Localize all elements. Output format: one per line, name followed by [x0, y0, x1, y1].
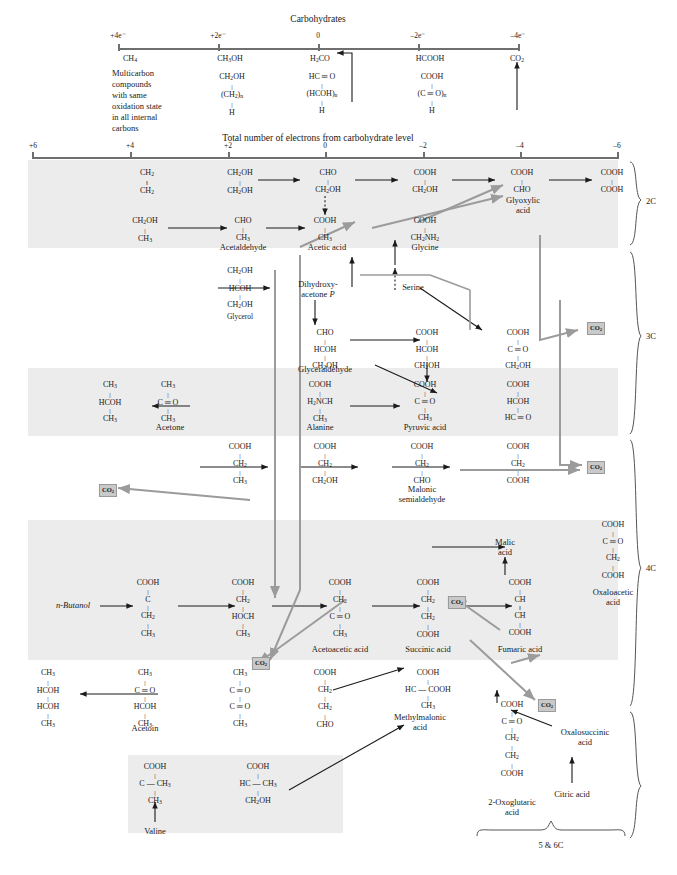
- formula-line: CH3: [132, 234, 158, 246]
- molecule-ketoisovaleric-acid: COOH|C — CH3|CH3: [139, 762, 170, 808]
- generic-polyketone: COOH | (C ═ O)n | H: [418, 72, 447, 117]
- label-pyruvic-acid: Pyruvic acid: [404, 423, 447, 433]
- note-line: carbons: [112, 123, 162, 134]
- label-fumaric-acid: Fumaric acid: [498, 645, 543, 655]
- main-tick: [130, 152, 132, 159]
- top-tick-label: –4e⁻: [511, 31, 526, 40]
- formula-line: COOH: [307, 380, 333, 391]
- top-tick-label: –2e⁻: [411, 31, 426, 40]
- brace-label-3c: 3C: [646, 331, 656, 341]
- formula-line: COOH: [405, 668, 451, 679]
- label-acetoacetic-acid: Acetoacetic acid: [312, 645, 368, 655]
- formula-line: CH3: [139, 796, 170, 808]
- main-tick-label: 0: [323, 141, 327, 150]
- formula-line: COOH: [505, 328, 531, 339]
- formula-line: CHO: [235, 216, 252, 227]
- molecule-glycolaldehyde: CHO|CH2OH: [315, 168, 341, 196]
- formula-line: COOH: [314, 668, 337, 679]
- formula-line: HC ═ O: [505, 413, 532, 424]
- main-tick: [32, 152, 34, 159]
- molecule-glyceric-acid: COOH|HCOH|CH2OH: [414, 328, 440, 373]
- formula-line: CH3: [229, 476, 252, 488]
- top-tick: [518, 44, 520, 51]
- label-oxaloacetic-acid: Oxaloaceticacid: [593, 588, 634, 607]
- generic-line: H: [307, 106, 338, 117]
- formula-line: COOH: [139, 762, 170, 773]
- note-line: compounds: [112, 79, 162, 90]
- formula-carbon-dioxide: CO2: [510, 54, 524, 66]
- formula-line: COOH: [509, 578, 532, 589]
- formula-line: COOH: [229, 442, 252, 453]
- molecule-glycolic-acid: COOH|CH2OH: [412, 168, 438, 196]
- generic-line: H: [219, 108, 245, 119]
- molecule-ethanol: CH2OH|CH3: [132, 216, 158, 246]
- formula-line: COOH: [314, 216, 337, 227]
- formula-line: COOH: [417, 630, 440, 641]
- formula-line: CH3: [230, 719, 251, 731]
- formula-line: CH2OH: [315, 185, 341, 197]
- formula-line: CH2OH: [227, 300, 253, 312]
- label-valine: Valine: [144, 827, 166, 837]
- molecule-malonic-acid: COOH|CH2|COOH: [507, 442, 530, 487]
- formula-line: COOH: [312, 442, 338, 453]
- formula-line: COOH: [414, 380, 437, 391]
- formula-line: COOH: [137, 578, 160, 589]
- formula-line: CH2OH: [312, 476, 338, 488]
- formula-line: CHO: [511, 185, 534, 196]
- formula-line: CH3: [329, 629, 352, 641]
- top-tick: [118, 44, 120, 51]
- molecule-glyoxylic-acid: COOH|CHO: [511, 168, 534, 195]
- formula-line: COOH: [601, 185, 624, 196]
- main-tick-label: –4: [516, 141, 524, 150]
- main-tick-label: +2: [224, 141, 232, 150]
- formula-line: CH2OH: [412, 185, 438, 197]
- formula-line: COOH: [239, 762, 276, 773]
- generic-line: H: [418, 106, 447, 117]
- formula-line: COOH: [505, 380, 532, 391]
- co2-badge: CO2: [587, 322, 605, 335]
- top-scale-title: Carbohydrates: [290, 14, 345, 24]
- formula-methanol: CH3OH: [217, 54, 243, 66]
- label-acetaldehyde: Acetaldehyde: [220, 243, 267, 253]
- molecule-succinic-semialdehyde: COOH|CH2|CH2|CHO: [314, 668, 337, 731]
- molecule-ethylene: CH2‖CH2: [140, 168, 154, 198]
- molecule-methylmalonic-acid: COOH|HC — COOH|CH3: [405, 668, 451, 713]
- formula-line: COOH: [411, 442, 434, 453]
- label-acetic-acid: Acetic acid: [308, 243, 346, 253]
- formula-line: COOH: [232, 578, 255, 589]
- label-malonic-semialdehyde: Malonicsemialdehyde: [399, 485, 446, 504]
- label-n-butanol: n-Butanol: [56, 601, 90, 611]
- molecule-propionic-acid: COOH|CH2|CH3: [229, 442, 252, 488]
- formula-line: CH2OH: [414, 361, 440, 373]
- label-glycine: Glycine: [412, 243, 439, 253]
- molecule-succinic-acid: COOH|CH2|CH2|COOH: [417, 578, 440, 641]
- molecule-hydroxypyruvic-acid: COOH|C ═ O|CH2OH: [505, 328, 531, 373]
- molecule-acetaldehyde: CHO|CH3: [235, 216, 252, 244]
- molecule-glycerol: CH2OH|HCOH|CH2OH: [227, 266, 253, 312]
- note-line: with same: [112, 90, 162, 101]
- label-citric-acid: Citric acid: [554, 790, 590, 800]
- formula-line: CH2OH: [239, 796, 276, 808]
- formula-line: COOH: [414, 328, 440, 339]
- molecule-butanediol: CH3|HCOH|HCOH|CH3: [37, 668, 60, 731]
- generic-polyol: CH2OH | (CH2)n | H: [219, 72, 245, 118]
- molecule-alanine: COOH|H2NCH|CH3: [307, 380, 333, 426]
- molecule-pyruvic-acid: COOH|C ═ O|CH3: [414, 380, 437, 425]
- top-tick-label: +4e⁻: [110, 31, 125, 40]
- label-glycerol: Glycerol: [227, 312, 253, 322]
- label-methylmalonic-acid: Methylmalonicacid: [394, 713, 446, 732]
- formula-line: COOH: [501, 769, 524, 780]
- main-scale-title: Total number of electrons from carbohydr…: [222, 133, 413, 143]
- formula-line: CH3: [99, 414, 122, 426]
- molecule-isopropanol: CH3|HCOH|CH3: [99, 380, 122, 426]
- formula-line: COOH: [509, 628, 532, 639]
- label-oxoglutaric-acid: 2-Oxoglutaricacid: [488, 798, 536, 817]
- brace-label-2c: 2C: [646, 196, 656, 206]
- formula-line: COOH: [501, 700, 524, 711]
- molecule-oxalic-acid: COOH|COOH: [601, 168, 624, 195]
- molecule-ethylene-glycol: CH2OH|CH2OH: [227, 168, 253, 198]
- main-tick-label: +6: [29, 141, 37, 150]
- formula-line: COOH: [507, 476, 530, 487]
- molecule-butyric-acid: COOH|C|CH2|CH3: [137, 578, 160, 641]
- formula-line: COOH: [417, 578, 440, 589]
